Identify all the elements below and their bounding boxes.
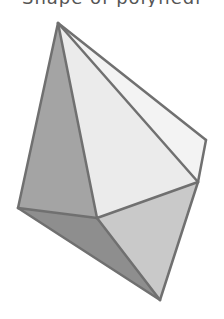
polyhedron-figure bbox=[0, 0, 224, 319]
